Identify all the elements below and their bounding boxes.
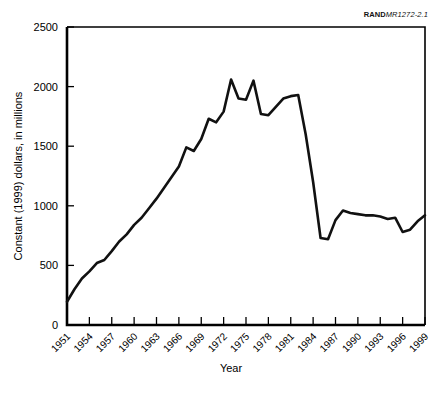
source-note-bold: RAND [364, 10, 386, 19]
x-axis-title: Year [220, 362, 243, 374]
plot-axes [67, 27, 425, 325]
x-tick-label: 1951 [49, 330, 73, 354]
x-tick-label: 1987 [317, 330, 341, 354]
source-note-italic: MR1272-2.1 [386, 10, 428, 19]
x-tick-label: 1954 [71, 330, 95, 354]
x-tick-label: 1957 [94, 330, 118, 354]
y-tick-label: 0 [52, 319, 58, 331]
y-axis-tick-labels: 05001000150020002500 [34, 21, 58, 331]
x-tick-label: 1969 [183, 330, 207, 354]
line-chart: 05001000150020002500 1951195419571960196… [0, 0, 440, 394]
x-tick-label: 1996 [385, 330, 409, 354]
x-tick-label: 1963 [138, 330, 162, 354]
y-tick-label: 1000 [34, 200, 58, 212]
y-axis-title: Constant (1999) dollars, in millions [12, 91, 24, 260]
x-tick-label: 1966 [161, 330, 185, 354]
x-tick-label: 1990 [340, 330, 364, 354]
figure-container: RANDMR1272-2.1 05001000150020002500 1951… [0, 0, 440, 394]
x-axis-tick-labels: 1951195419571960196319661969197219751978… [49, 330, 431, 354]
x-tick-label: 1975 [228, 330, 252, 354]
source-note: RANDMR1272-2.1 [364, 10, 428, 19]
plot-frame [67, 27, 425, 325]
x-tick-label: 1993 [362, 330, 386, 354]
y-tick-label: 500 [40, 259, 58, 271]
x-tick-label: 1960 [116, 330, 140, 354]
y-tick-label: 1500 [34, 140, 58, 152]
y-tick-label: 2500 [34, 21, 58, 33]
x-tick-label: 1978 [250, 330, 274, 354]
data-series-line [67, 79, 425, 301]
x-tick-label: 1984 [295, 330, 319, 354]
y-tick-label: 2000 [34, 81, 58, 93]
x-tick-label: 1981 [273, 330, 297, 354]
x-tick-label: 1999 [407, 330, 431, 354]
x-tick-label: 1972 [206, 330, 230, 354]
